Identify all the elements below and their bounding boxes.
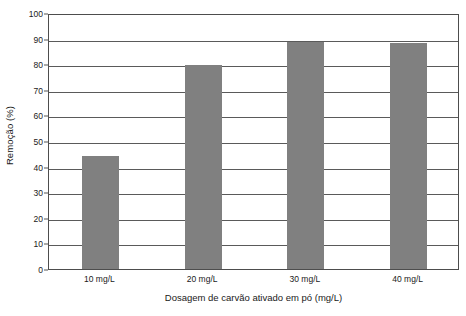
y-axis-tick-labels: 0102030405060708090100 xyxy=(18,14,43,270)
plot-area xyxy=(48,14,459,270)
bars-layer xyxy=(49,15,458,269)
y-axis-tick-label: 0 xyxy=(38,266,43,275)
y-axis-tick-label: 80 xyxy=(34,61,43,70)
x-axis-tick-label: 40 mg/L xyxy=(392,274,423,284)
y-axis-tick-label: 50 xyxy=(34,138,43,147)
y-axis-tick-label: 90 xyxy=(34,35,43,44)
bar xyxy=(82,156,119,269)
x-axis-tick-label: 10 mg/L xyxy=(84,274,115,284)
x-axis-title: Dosagem de carvão ativado em pó (mg/L) xyxy=(48,292,459,303)
y-axis-tick-label: 100 xyxy=(29,10,43,19)
x-axis-tick-labels: 10 mg/L20 mg/L30 mg/L40 mg/L xyxy=(48,274,459,288)
y-axis-tick-label: 30 xyxy=(34,189,43,198)
bar xyxy=(287,42,324,269)
y-axis-title: Remoção (%) xyxy=(0,0,20,270)
y-axis-tick-label: 40 xyxy=(34,163,43,172)
y-axis-title-text: Remoção (%) xyxy=(5,105,16,164)
y-axis-tick-label: 60 xyxy=(34,112,43,121)
x-axis-tick-label: 20 mg/L xyxy=(187,274,218,284)
x-axis-tick-label: 30 mg/L xyxy=(290,274,321,284)
bar xyxy=(185,65,222,269)
bar-chart-figure: Remoção (%) 0102030405060708090100 10 mg… xyxy=(0,0,466,316)
y-axis-tick-label: 10 xyxy=(34,240,43,249)
y-axis-tick-label: 20 xyxy=(34,214,43,223)
bar xyxy=(390,43,427,269)
y-axis-tick-label: 70 xyxy=(34,86,43,95)
